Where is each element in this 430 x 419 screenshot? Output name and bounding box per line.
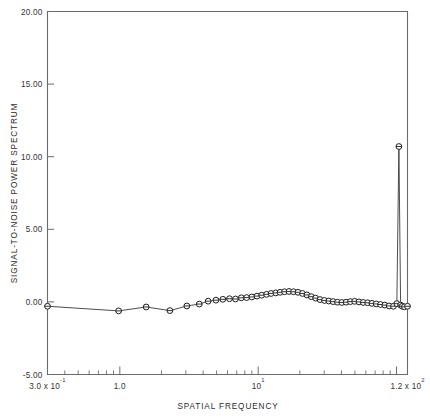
y-axis-title: SIGNAL-TO-NOISE POWER SPECTRUM [10, 103, 19, 284]
x-tick-label: 101 [252, 377, 265, 390]
y-tick-label: 5.00 [26, 225, 43, 234]
y-axis-tick-labels: -5.000.005.0010.0015.0020.00 [21, 8, 43, 380]
x-tick-label: 1.0 [114, 382, 126, 391]
y-tick-label: 20.00 [21, 8, 43, 17]
series-markers [45, 144, 411, 314]
data-series-group [45, 144, 411, 314]
y-axis-tick-marks [48, 12, 55, 375]
y-tick-label: 10.00 [21, 153, 43, 162]
axes-frame [48, 12, 408, 375]
plot-frame [48, 12, 408, 375]
signal-to-noise-spectrum-figure: -5.000.005.0010.0015.0020.00 3.0 x 10-11… [0, 0, 430, 419]
y-tick-label: 0.00 [26, 298, 43, 307]
y-tick-label: -5.00 [23, 371, 43, 380]
x-axis-title: SPATIAL FREQUENCY [177, 402, 278, 411]
y-tick-label: 15.00 [21, 80, 43, 89]
x-tick-label: 1.2 x 102 [390, 377, 424, 390]
series-polyline [48, 147, 408, 311]
chart-canvas: -5.000.005.0010.0015.0020.00 3.0 x 10-11… [0, 0, 430, 419]
x-axis-tick-labels: 3.0 x 10-11.01011.2 x 102 [29, 377, 424, 390]
x-axis-tick-marks [48, 367, 408, 375]
